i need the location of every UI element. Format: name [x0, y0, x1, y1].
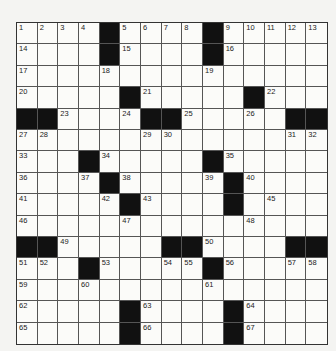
grid-cell[interactable]: 64 [244, 301, 265, 322]
grid-cell[interactable]: 38 [120, 173, 141, 194]
grid-cell[interactable]: 43 [141, 194, 162, 215]
grid-cell[interactable] [162, 66, 183, 87]
grid-cell[interactable] [265, 109, 286, 130]
grid-cell[interactable]: 24 [120, 109, 141, 130]
grid-cell[interactable] [58, 173, 79, 194]
grid-cell[interactable] [286, 301, 307, 322]
grid-cell[interactable] [38, 87, 59, 108]
grid-cell[interactable] [38, 301, 59, 322]
grid-cell[interactable] [141, 280, 162, 301]
grid-cell[interactable]: 15 [120, 44, 141, 65]
grid-cell[interactable] [58, 130, 79, 151]
grid-cell[interactable] [265, 216, 286, 237]
grid-cell[interactable]: 49 [58, 237, 79, 258]
grid-cell[interactable] [120, 237, 141, 258]
grid-cell[interactable]: 6 [141, 23, 162, 44]
grid-cell[interactable]: 33 [17, 151, 38, 172]
grid-cell[interactable]: 40 [244, 173, 265, 194]
grid-cell[interactable] [286, 280, 307, 301]
grid-cell[interactable] [182, 216, 203, 237]
grid-cell[interactable] [306, 323, 327, 344]
grid-cell[interactable] [58, 194, 79, 215]
grid-cell[interactable] [162, 216, 183, 237]
grid-cell[interactable] [286, 66, 307, 87]
grid-cell[interactable] [265, 323, 286, 344]
grid-cell[interactable] [58, 280, 79, 301]
grid-cell[interactable] [38, 280, 59, 301]
grid-cell[interactable]: 26 [244, 109, 265, 130]
grid-cell[interactable] [265, 66, 286, 87]
grid-cell[interactable] [306, 280, 327, 301]
grid-cell[interactable]: 52 [38, 258, 59, 279]
grid-cell[interactable]: 17 [17, 66, 38, 87]
grid-cell[interactable] [224, 87, 245, 108]
grid-cell[interactable]: 32 [306, 130, 327, 151]
grid-cell[interactable] [244, 258, 265, 279]
grid-cell[interactable] [182, 280, 203, 301]
grid-cell[interactable]: 19 [203, 66, 224, 87]
grid-cell[interactable]: 57 [286, 258, 307, 279]
grid-cell[interactable] [100, 109, 121, 130]
grid-cell[interactable] [224, 280, 245, 301]
grid-cell[interactable] [162, 173, 183, 194]
grid-cell[interactable] [286, 87, 307, 108]
grid-cell[interactable]: 8 [182, 23, 203, 44]
grid-cell[interactable]: 16 [224, 44, 245, 65]
grid-cell[interactable] [203, 216, 224, 237]
grid-cell[interactable] [141, 151, 162, 172]
grid-cell[interactable] [306, 87, 327, 108]
grid-cell[interactable] [306, 194, 327, 215]
grid-cell[interactable] [58, 323, 79, 344]
grid-cell[interactable] [79, 130, 100, 151]
grid-cell[interactable]: 3 [58, 23, 79, 44]
grid-cell[interactable]: 48 [244, 216, 265, 237]
grid-cell[interactable] [141, 44, 162, 65]
grid-cell[interactable] [224, 237, 245, 258]
grid-cell[interactable]: 65 [17, 323, 38, 344]
grid-cell[interactable] [79, 44, 100, 65]
grid-cell[interactable] [224, 130, 245, 151]
grid-cell[interactable]: 56 [224, 258, 245, 279]
grid-cell[interactable] [79, 66, 100, 87]
grid-cell[interactable] [162, 194, 183, 215]
grid-cell[interactable] [79, 216, 100, 237]
grid-cell[interactable]: 67 [244, 323, 265, 344]
grid-cell[interactable] [244, 280, 265, 301]
grid-cell[interactable]: 10 [244, 23, 265, 44]
grid-cell[interactable]: 30 [162, 130, 183, 151]
grid-cell[interactable] [79, 194, 100, 215]
grid-cell[interactable] [306, 301, 327, 322]
grid-cell[interactable] [141, 237, 162, 258]
grid-cell[interactable] [224, 216, 245, 237]
grid-cell[interactable] [265, 280, 286, 301]
grid-cell[interactable] [162, 44, 183, 65]
grid-cell[interactable] [244, 130, 265, 151]
grid-cell[interactable] [182, 151, 203, 172]
grid-cell[interactable] [100, 237, 121, 258]
grid-cell[interactable] [120, 151, 141, 172]
grid-cell[interactable] [100, 280, 121, 301]
grid-cell[interactable]: 35 [224, 151, 245, 172]
grid-cell[interactable] [182, 323, 203, 344]
grid-cell[interactable] [286, 323, 307, 344]
grid-cell[interactable] [162, 87, 183, 108]
grid-cell[interactable] [306, 151, 327, 172]
grid-cell[interactable] [38, 151, 59, 172]
grid-cell[interactable] [100, 130, 121, 151]
grid-cell[interactable] [265, 173, 286, 194]
grid-cell[interactable] [162, 323, 183, 344]
grid-cell[interactable]: 63 [141, 301, 162, 322]
grid-cell[interactable] [38, 216, 59, 237]
grid-cell[interactable] [58, 44, 79, 65]
grid-cell[interactable]: 11 [265, 23, 286, 44]
grid-cell[interactable]: 13 [306, 23, 327, 44]
grid-cell[interactable] [182, 87, 203, 108]
grid-cell[interactable]: 25 [182, 109, 203, 130]
grid-cell[interactable]: 59 [17, 280, 38, 301]
grid-cell[interactable] [286, 44, 307, 65]
grid-cell[interactable] [203, 323, 224, 344]
grid-cell[interactable]: 22 [265, 87, 286, 108]
grid-cell[interactable] [203, 130, 224, 151]
grid-cell[interactable]: 2 [38, 23, 59, 44]
grid-cell[interactable] [162, 301, 183, 322]
